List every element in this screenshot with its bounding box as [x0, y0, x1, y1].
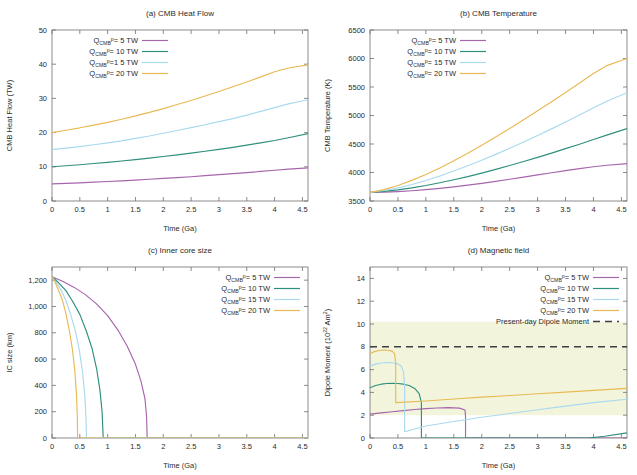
x-tick-label: 3.5: [242, 442, 252, 451]
y-tick-label: 1,000: [28, 302, 47, 311]
x-axis-label: Time (Ga): [163, 224, 197, 233]
legend-entry-2: QCMBp= 10 TW: [540, 284, 590, 294]
series-curve-2: [370, 129, 627, 193]
x-tick-label: 4.5: [297, 205, 307, 214]
legend-entry-3: QCMBp= 15 TW: [540, 295, 590, 305]
y-tick-label: 6500: [348, 26, 365, 35]
y-tick-label: 4500: [348, 140, 365, 149]
y-tick-label: 6000: [348, 54, 365, 63]
x-tick-label: 1: [424, 442, 428, 451]
y-tick-label: 10: [357, 320, 365, 329]
x-tick-label: 4: [591, 442, 595, 451]
legend-text: QCMBp= 5 TW: [93, 36, 138, 46]
x-tick-label: 3: [536, 442, 540, 451]
x-tick-label: 1: [106, 442, 110, 451]
x-tick-label: 1: [106, 205, 110, 214]
chart-b: (b) CMB Temperature00.511.522.533.544.53…: [318, 0, 637, 237]
y-tick-label: 50: [39, 26, 47, 35]
figure-grid: (a) CMB Heat Flow00.511.522.533.544.5010…: [0, 0, 637, 475]
legend-entry-4: QCMBp= 20 TW: [407, 69, 457, 79]
legend-entry-3: QCMBp= 15 TW: [221, 295, 271, 305]
legend-entry-4: QCMBp= 20 TW: [89, 69, 139, 79]
panel-c-inner-core-size: (c) Inner core size00.511.522.533.544.50…: [0, 237, 318, 475]
series-curve-4: [370, 59, 627, 193]
legend-text: QCMBp= 15 TW: [407, 58, 457, 68]
chart-a: (a) CMB Heat Flow00.511.522.533.544.5010…: [0, 0, 318, 237]
legend-text: QCMBp= 10 TW: [89, 47, 139, 57]
x-tick-label: 0.5: [393, 442, 403, 451]
y-tick-label: 6: [361, 365, 365, 374]
x-axis-label: Time (Ga): [482, 224, 516, 233]
legend-text: QCMBp= 20 TW: [540, 306, 590, 316]
y-tick-label: 2: [361, 411, 365, 420]
y-axis-label: CMB Temperature (K): [323, 79, 332, 152]
x-tick-label: 1: [424, 205, 428, 214]
x-tick-label: 0.5: [75, 205, 85, 214]
legend-entry-1: QCMBp= 5 TW: [225, 273, 270, 283]
legend-text: QCMBp= 5 TW: [225, 273, 270, 283]
legend-entry-2: QCMBp= 10 TW: [221, 284, 271, 294]
x-axis-label: Time (Ga): [482, 461, 516, 470]
y-tick-label: 4000: [348, 168, 365, 177]
y-axis-label: CMB Heat Flow (TW): [5, 79, 14, 151]
x-tick-label: 3.5: [560, 442, 570, 451]
legend-text: QCMBp= 10 TW: [407, 47, 457, 57]
y-tick-label: 20: [39, 128, 47, 137]
y-tick-label: 3500: [348, 197, 365, 206]
y-tick-label: 30: [39, 94, 47, 103]
legend-text: QCMBp=1 5 TW: [89, 58, 139, 68]
x-tick-label: 4: [591, 205, 595, 214]
x-tick-label: 2: [161, 442, 165, 451]
x-tick-label: 3.5: [560, 205, 570, 214]
x-tick-label: 4: [273, 205, 277, 214]
legend-entry-2: QCMBp= 10 TW: [407, 47, 457, 57]
panel-d-magnetic-field: (d) Magnetic field00.511.522.533.544.502…: [318, 237, 637, 475]
legend-entry-1: QCMBp= 5 TW: [544, 273, 589, 283]
x-axis-label: Time (Ga): [163, 461, 197, 470]
legend-text: QCMBp= 5 TW: [411, 36, 456, 46]
y-tick-label: 14: [357, 274, 365, 283]
legend-text: QCMBp= 20 TW: [221, 306, 271, 316]
y-tick-label: 5000: [348, 111, 365, 120]
x-tick-label: 1.5: [130, 442, 140, 451]
x-tick-label: 3: [217, 205, 221, 214]
x-tick-label: 1.5: [449, 442, 459, 451]
x-tick-label: 1.5: [130, 205, 140, 214]
x-tick-label: 2: [161, 205, 165, 214]
chart-c: (c) Inner core size00.511.522.533.544.50…: [0, 237, 318, 474]
y-axis-label: Dipole Moment (1022 Am2): [322, 308, 332, 396]
panel-b-cmb-temperature: (b) CMB Temperature00.511.522.533.544.53…: [318, 0, 637, 237]
y-tick-label: 1,200: [28, 276, 47, 285]
legend-text: QCMBp= 15 TW: [540, 295, 590, 305]
y-tick-label: 4: [361, 388, 365, 397]
legend-entry-2: QCMBp= 10 TW: [89, 47, 139, 57]
x-tick-label: 0: [368, 205, 372, 214]
x-tick-label: 3: [536, 205, 540, 214]
y-axis-label: IC size (km): [5, 332, 14, 373]
legend-entry-dashed: Present-day Dipole Moment: [496, 317, 590, 326]
series-curve-3: [52, 100, 308, 150]
legend-text: QCMBp= 5 TW: [544, 273, 589, 283]
plot-area: [370, 59, 627, 193]
x-tick-label: 0: [368, 442, 372, 451]
y-tick-label: 800: [34, 328, 47, 337]
y-tick-label: 0: [361, 434, 365, 443]
x-tick-label: 2: [480, 205, 484, 214]
x-tick-label: 2.5: [186, 442, 196, 451]
x-tick-label: 0: [50, 442, 54, 451]
x-tick-label: 3.5: [242, 205, 252, 214]
x-tick-label: 3: [217, 442, 221, 451]
legend-entry-4: QCMBp= 20 TW: [540, 306, 590, 316]
legend-entry-1: QCMBp= 5 TW: [93, 36, 138, 46]
legend-entry-1: QCMBp= 5 TW: [411, 36, 456, 46]
y-tick-label: 5500: [348, 83, 365, 92]
legend-entry-3: QCMBp= 15 TW: [407, 58, 457, 68]
y-tick-label: 400: [34, 381, 47, 390]
y-tick-label: 0: [43, 197, 47, 206]
legend-text: QCMBp= 10 TW: [221, 284, 271, 294]
panel-title: (a) CMB Heat Flow: [146, 9, 214, 18]
x-tick-label: 4.5: [616, 205, 626, 214]
panel-title: (d) Magnetic field: [468, 246, 529, 255]
x-tick-label: 1.5: [449, 205, 459, 214]
x-tick-label: 4: [273, 442, 277, 451]
